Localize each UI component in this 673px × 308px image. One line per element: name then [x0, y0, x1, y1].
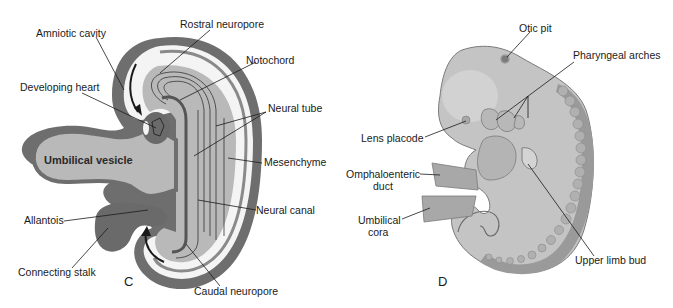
label-rostral-neuropore: Rostral neuropore [180, 18, 264, 30]
label-notochord: Notochord [246, 54, 295, 66]
label-umbilical-vesicle: Umbilical vesicle [44, 154, 133, 166]
label-mesenchyme: Mesenchyme [264, 156, 327, 168]
label-umbilical-cord-2: cora [368, 226, 389, 238]
label-lens-placode: Lens placode [361, 132, 424, 144]
label-caudal-neuropore: Caudal neuropore [194, 285, 278, 297]
label-amniotic-cavity: Amniotic cavity [36, 27, 107, 39]
lens-placode-shape [462, 116, 470, 124]
label-connecting-stalk: Connecting stalk [18, 266, 96, 278]
label-neural-tube: Neural tube [268, 102, 322, 114]
label-omphaloenteric-duct-2: duct [373, 180, 393, 192]
label-pharyngeal-arches: Pharyngeal arches [573, 49, 661, 61]
panel-c: Amniotic cavity Rostral neuropore Notoch… [18, 18, 327, 297]
label-umbilical-cord-1: Umbilical [358, 214, 401, 226]
panel-d: Otic pit Pharyngeal arches Lens placode … [346, 22, 661, 289]
label-developing-heart: Developing heart [20, 81, 99, 93]
label-neural-canal: Neural canal [256, 204, 315, 216]
label-upper-limb-bud: Upper limb bud [575, 254, 646, 266]
embryo-figure: Amniotic cavity Rostral neuropore Notoch… [0, 0, 673, 308]
label-otic-pit: Otic pit [519, 22, 552, 34]
panel-label-c: C [124, 274, 133, 289]
panel-label-d: D [438, 274, 447, 289]
heart-icon [142, 112, 170, 144]
label-omphaloenteric-duct-1: Omphaloenteric [346, 168, 420, 180]
label-allantois: Allantois [24, 214, 64, 226]
